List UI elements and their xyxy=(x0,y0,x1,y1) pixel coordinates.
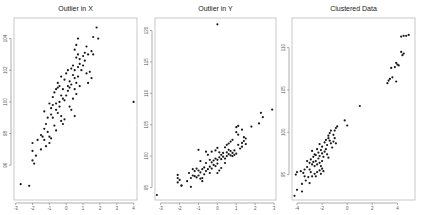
data-point xyxy=(314,165,316,167)
data-point xyxy=(317,157,319,159)
data-point xyxy=(296,189,298,191)
data-point xyxy=(309,162,311,164)
data-point xyxy=(408,34,410,36)
data-point xyxy=(316,148,318,150)
x-tick-label: 2 xyxy=(371,206,374,211)
data-point xyxy=(301,190,303,192)
data-point xyxy=(315,160,317,162)
y-tick-label: 95 xyxy=(281,172,286,178)
data-point xyxy=(311,150,313,152)
data-point xyxy=(315,175,317,177)
data-point xyxy=(390,67,392,69)
data-point xyxy=(319,162,321,164)
data-point xyxy=(304,175,306,177)
data-point xyxy=(321,146,323,148)
data-point xyxy=(329,132,331,134)
data-point xyxy=(310,158,312,160)
data-point xyxy=(334,130,336,132)
data-point xyxy=(317,152,319,154)
data-point xyxy=(326,153,328,155)
data-point xyxy=(403,53,405,55)
data-point xyxy=(326,144,328,146)
data-point xyxy=(334,137,336,139)
data-point xyxy=(389,78,391,80)
x-tick-label: 4 xyxy=(396,206,399,211)
x-tick-label: -2 xyxy=(320,206,324,211)
data-point xyxy=(335,142,337,144)
data-point xyxy=(322,156,324,158)
data-point xyxy=(330,130,332,132)
data-point xyxy=(306,160,308,162)
data-point xyxy=(336,125,338,127)
data-point xyxy=(311,163,313,165)
scatter-panel-clustered-data: Clustered Data -4-202495100105110 xyxy=(0,0,422,215)
data-point xyxy=(400,51,402,53)
data-point xyxy=(346,124,348,126)
data-point xyxy=(316,171,318,173)
data-point xyxy=(386,82,388,84)
data-point xyxy=(332,141,334,143)
data-point xyxy=(306,166,308,168)
data-point xyxy=(325,139,327,141)
data-point xyxy=(325,148,327,150)
data-point xyxy=(314,173,316,175)
data-point xyxy=(320,165,322,167)
data-point xyxy=(312,156,314,158)
data-point xyxy=(324,141,326,143)
data-point xyxy=(398,64,400,66)
data-point xyxy=(331,146,333,148)
data-point xyxy=(394,66,396,68)
x-tick-label: 0 xyxy=(346,206,349,211)
data-point xyxy=(395,80,397,82)
data-point xyxy=(295,174,297,176)
y-tick-label: 110 xyxy=(281,44,286,52)
y-tick-label: 105 xyxy=(281,86,286,94)
data-point xyxy=(312,161,314,163)
data-point xyxy=(300,170,302,172)
data-point xyxy=(403,35,405,37)
data-point xyxy=(310,171,312,173)
data-point xyxy=(400,36,402,38)
data-point xyxy=(301,183,303,185)
data-point xyxy=(309,182,311,184)
data-point xyxy=(296,171,298,173)
data-point xyxy=(321,160,323,162)
data-point xyxy=(316,163,318,165)
data-point xyxy=(405,35,407,37)
data-point xyxy=(321,152,323,154)
data-point xyxy=(327,157,329,159)
x-axis: -4-2024 xyxy=(295,203,399,211)
data-point xyxy=(319,143,321,145)
data-points xyxy=(293,34,409,197)
data-point xyxy=(320,173,322,175)
data-point xyxy=(359,105,361,107)
data-point xyxy=(324,151,326,153)
data-point xyxy=(330,142,332,144)
data-point xyxy=(344,119,346,121)
data-point xyxy=(314,153,316,155)
y-tick-label: 100 xyxy=(281,128,286,136)
data-point xyxy=(320,149,322,151)
panel-title: Clustered Data xyxy=(330,5,377,12)
x-tick-label: -4 xyxy=(295,206,299,211)
chart-figure: Outlier in X -3-2-1012349698100102104 Ou… xyxy=(0,0,422,215)
y-axis: 95100105110 xyxy=(281,44,289,178)
data-point xyxy=(302,172,304,174)
data-point xyxy=(293,195,295,197)
data-point xyxy=(304,168,306,170)
data-point xyxy=(319,155,321,157)
data-point xyxy=(391,76,393,78)
data-point xyxy=(327,135,329,137)
data-point xyxy=(332,134,334,136)
data-point xyxy=(322,170,324,172)
data-point xyxy=(329,140,331,142)
data-point xyxy=(307,176,309,178)
data-point xyxy=(311,175,313,177)
data-point xyxy=(327,137,329,139)
data-point xyxy=(305,179,307,181)
data-point xyxy=(309,168,311,170)
data-point xyxy=(319,169,321,171)
data-point xyxy=(321,168,323,170)
